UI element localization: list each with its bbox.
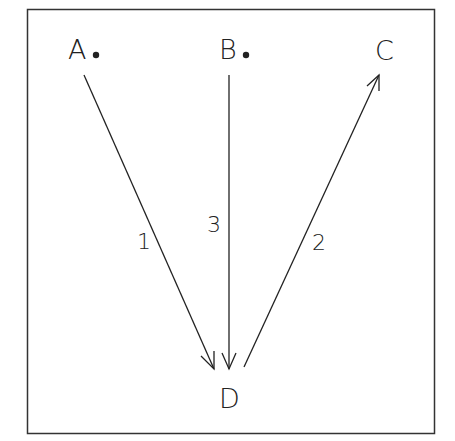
- node-label-a: A: [68, 34, 86, 65]
- diagram-frame: [28, 10, 435, 434]
- edge-3-arrow: [222, 75, 236, 369]
- node-label-c: C: [375, 35, 394, 66]
- node-label-d: D: [219, 383, 240, 414]
- vector-diagram: A B C D 1 3 2: [0, 0, 455, 441]
- edge-2-arrow: [244, 75, 379, 367]
- edge-label-2: 2: [312, 230, 326, 255]
- node-dot-b: [243, 52, 249, 58]
- edge-label-1: 1: [137, 229, 151, 254]
- edge-1-arrow: [84, 75, 214, 369]
- node-label-b: B: [219, 34, 237, 65]
- edge-label-3: 3: [207, 212, 221, 237]
- node-dot-a: [93, 52, 99, 58]
